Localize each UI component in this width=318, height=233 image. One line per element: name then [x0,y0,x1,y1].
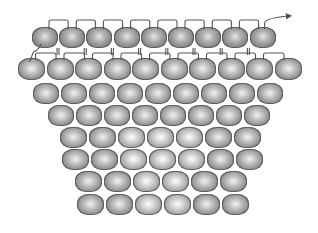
bead-diagram: Bead weaving pattern diagram (tapered sh… [0,0,318,233]
thread-path [0,0,318,233]
